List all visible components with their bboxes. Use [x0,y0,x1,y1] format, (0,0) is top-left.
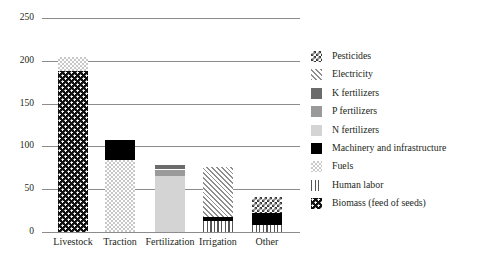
x-axis-labels: LivestockTractionFertilizationIrrigation… [42,236,300,256]
bar-segment[interactable] [155,170,185,177]
legend-item[interactable]: Biomass (feed of seeds) [311,195,475,213]
legend-item[interactable]: Machinery and infrastructure [311,140,475,158]
bar-segment[interactable] [203,217,233,220]
bar-segment[interactable] [105,160,135,232]
legend-item-label: Machinery and infrastructure [332,141,446,154]
legend-swatch-icon [311,88,322,99]
legend-item-label: Pesticides [332,49,371,62]
bar-segment[interactable] [252,213,282,225]
legend-item-label: Human labor [332,178,383,191]
y-axis-tick-label: 250 [0,13,34,23]
legend-item[interactable]: N fertilizers [311,122,475,140]
y-axis-tick-label: 100 [0,141,34,151]
legend-item[interactable]: Pesticides [311,48,475,66]
bar-segment[interactable] [58,71,88,232]
bar-fertilization[interactable] [155,18,185,232]
legend-swatch-icon [311,143,322,154]
chart-legend: PesticidesElectricityK fertilizersP fert… [311,48,475,214]
legend-item-label: K fertilizers [332,86,379,99]
plot-area: 250200150100500 [42,18,300,232]
legend-item[interactable]: P fertilizers [311,103,475,121]
legend-swatch-icon [311,125,322,136]
legend-item[interactable]: K fertilizers [311,85,475,103]
bar-segment[interactable] [155,165,185,169]
legend-item-label: N fertilizers [332,123,379,136]
legend-item-label: Electricity [332,67,373,80]
legend-item-label: Biomass (feed of seeds) [332,196,426,209]
legend-swatch-icon [311,106,322,117]
bar-other[interactable] [252,18,282,232]
legend-swatch-icon [311,69,322,80]
bar-livestock[interactable] [58,18,88,232]
x-axis-label-other: Other [217,236,317,248]
bar-segment[interactable] [105,140,135,160]
legend-item[interactable]: Fuels [311,158,475,176]
bar-segment[interactable] [203,221,233,232]
bar-segment[interactable] [252,197,282,213]
bar-traction[interactable] [105,18,135,232]
legend-item[interactable]: Electricity [311,66,475,84]
bar-segment[interactable] [58,57,88,71]
bar-segment[interactable] [252,225,282,232]
x-axis-line [42,232,300,233]
bar-segment[interactable] [203,167,233,218]
y-axis-tick-label: 150 [0,99,34,109]
legend-swatch-icon [311,161,322,172]
bar-segment[interactable] [155,176,185,232]
legend-swatch-icon [311,198,322,209]
y-axis-tick-label: 200 [0,56,34,66]
bar-irrigation[interactable] [203,18,233,232]
y-axis-tick-label: 50 [0,184,34,194]
legend-swatch-icon [311,180,322,191]
legend-item-label: Fuels [332,159,353,172]
legend-item-label: P fertilizers [332,104,377,117]
legend-swatch-icon [311,51,322,62]
legend-item[interactable]: Human labor [311,177,475,195]
stacked-bar-chart-figure: 250200150100500 LivestockTractionFertili… [0,0,479,272]
